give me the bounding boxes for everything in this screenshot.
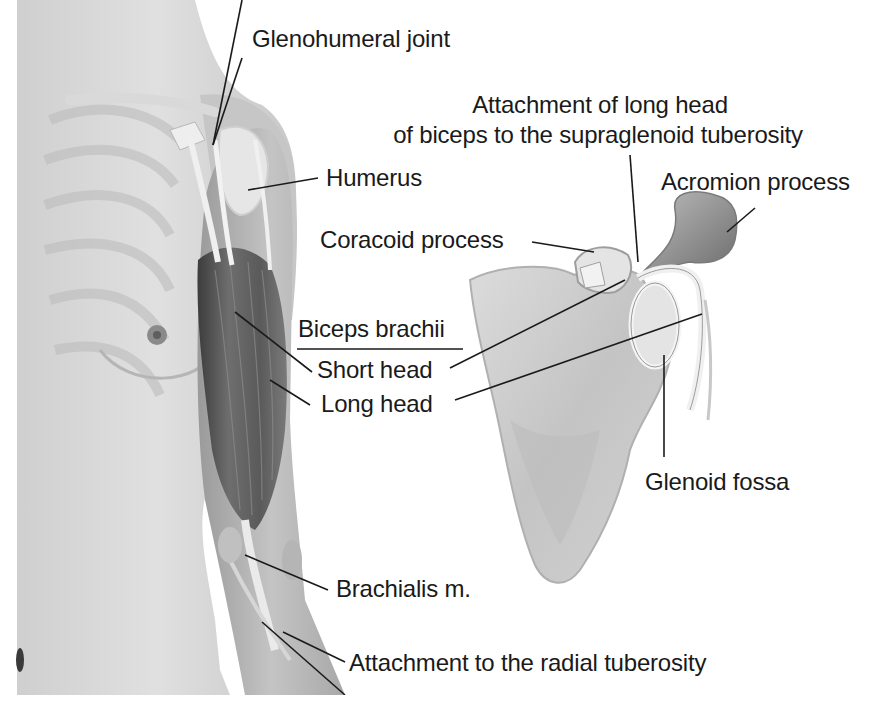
label-brachialis: Brachialis m. (336, 577, 471, 601)
navel (16, 648, 24, 672)
label-acromion-process: Acromion process (661, 170, 850, 194)
acromion-process (643, 192, 737, 273)
label-short-head: Short head (317, 358, 432, 382)
label-coracoid-process: Coracoid process (320, 228, 504, 252)
label-attachment-long-head-line2: of biceps to the supraglenoid tuberosity (358, 123, 838, 147)
label-glenohumeral-joint: Glenohumeral joint (252, 27, 450, 51)
torso-figure (16, 0, 345, 695)
scapula-figure (470, 192, 737, 583)
label-glenoid-fossa: Glenoid fossa (645, 470, 789, 494)
label-attachment-long-head-line1: Attachment of long head (450, 93, 750, 117)
label-humerus: Humerus (326, 166, 422, 190)
leader-coracoid (532, 242, 594, 252)
label-biceps-brachii: Biceps brachii (298, 317, 445, 341)
label-long-head: Long head (321, 392, 433, 416)
label-radial-tuberosity: Attachment to the radial tuberosity (349, 651, 706, 675)
bottom-margin (0, 695, 885, 706)
leader-supraglenoid (630, 155, 638, 262)
